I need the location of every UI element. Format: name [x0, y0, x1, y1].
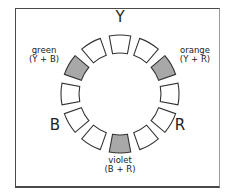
wheel-segment	[134, 38, 159, 62]
wheel-segment	[64, 108, 88, 133]
label-orange-formula: (Y + R)	[174, 55, 216, 64]
label-violet-formula: (B + R)	[98, 165, 142, 174]
label-blue-primary: B	[47, 117, 63, 134]
label-green-formula: (Y + B)	[24, 55, 64, 64]
wheel-segment	[134, 125, 159, 149]
label-orange: orange (Y + R)	[174, 46, 216, 65]
label-green: green (Y + B)	[24, 46, 64, 65]
wheel-segment-secondary	[151, 56, 175, 81]
label-red-primary: R	[172, 117, 188, 134]
wheel-segment	[61, 83, 80, 105]
wheel-segment	[109, 35, 131, 54]
wheel-segment-secondary	[64, 56, 88, 81]
label-yellow-primary: Y	[112, 9, 128, 26]
wheel-segment-secondary	[109, 134, 131, 153]
wheel-segment	[160, 83, 179, 105]
label-violet: violet (B + R)	[98, 156, 142, 175]
wheel-segment	[82, 125, 107, 149]
wheel-segment	[82, 38, 107, 62]
